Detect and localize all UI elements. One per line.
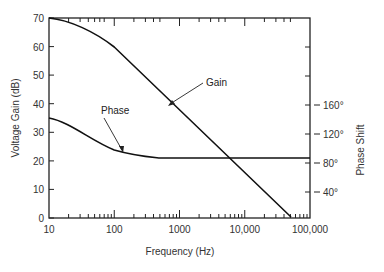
y-tick-60: 60	[33, 42, 45, 53]
y2-tick-80: 80°	[323, 158, 338, 169]
bode-plot: 0 10 20 30 40 50 60 70 Voltage Gain (dB)	[0, 0, 384, 272]
x-tick-100000: 100,000	[292, 224, 329, 235]
y-tick-0: 0	[38, 213, 44, 224]
x-tick-100: 100	[106, 224, 123, 235]
y-tick-50: 50	[33, 70, 45, 81]
y-tick-20: 20	[33, 156, 45, 167]
phase-label: Phase	[101, 105, 130, 116]
y2-tick-160: 160°	[323, 100, 344, 111]
x-axis-labels: 10 100 1000 10,000 100,000	[43, 224, 328, 235]
y2-tick-40: 40°	[323, 187, 338, 198]
y-tick-10: 10	[33, 184, 45, 195]
x-axis-top-ticks	[69, 18, 291, 26]
gain-annotation: Gain	[168, 77, 227, 106]
y2-axis-ticks	[305, 47, 320, 192]
x-tick-10: 10	[43, 224, 55, 235]
phase-curve	[49, 118, 310, 158]
x-tick-10000: 10,000	[229, 224, 260, 235]
y-axis-title: Voltage Gain (dB)	[10, 79, 21, 158]
x-tick-1000: 1000	[168, 224, 191, 235]
gain-curve	[49, 18, 291, 217]
y2-tick-120: 120°	[323, 129, 344, 140]
y2-axis-title: Phase Shift	[355, 124, 366, 175]
y-axis-labels: 0 10 20 30 40 50 60 70	[33, 13, 45, 224]
gain-label: Gain	[206, 77, 227, 88]
y-tick-30: 30	[33, 127, 45, 138]
plot-frame	[49, 18, 310, 218]
y-tick-40: 40	[33, 99, 45, 110]
x-axis-title: Frequency (Hz)	[146, 246, 215, 257]
y2-axis-labels: 160° 120° 80° 40°	[323, 100, 344, 198]
y-tick-70: 70	[33, 13, 45, 24]
x-axis-ticks	[69, 210, 307, 218]
